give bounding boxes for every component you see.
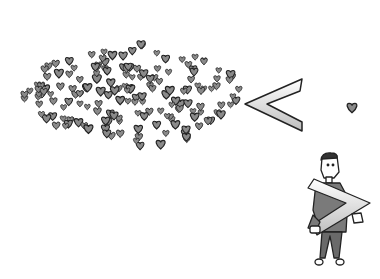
heart-icon — [66, 71, 73, 78]
heart-icon — [190, 68, 198, 76]
heart-icon — [216, 68, 222, 73]
heart-icon — [134, 125, 142, 133]
heart-icon — [209, 86, 215, 92]
heart-icon — [116, 96, 125, 104]
heart-icon — [123, 72, 129, 78]
heart-icon — [95, 101, 102, 108]
heart-icon — [154, 66, 160, 72]
heart-icon — [154, 51, 160, 57]
heart-icon — [132, 99, 138, 105]
heart-icon — [57, 83, 64, 90]
heart-icon — [101, 49, 107, 55]
heart-icon — [149, 85, 156, 92]
heart-icon — [52, 122, 60, 129]
heart-icon — [129, 75, 135, 80]
heart-icon — [71, 65, 77, 71]
heart-icon — [140, 113, 148, 121]
heart-icon — [228, 102, 234, 108]
heart-icon — [84, 125, 93, 134]
heart-icon — [156, 78, 163, 84]
heart-icon — [169, 102, 175, 107]
heart-icon — [103, 68, 111, 75]
heart-icon — [125, 98, 131, 104]
single-heart-icon — [347, 103, 357, 112]
less-than-sign — [245, 79, 302, 131]
heart-icon — [76, 77, 83, 83]
heart-icon — [41, 66, 48, 73]
heart-icon — [165, 69, 171, 75]
heart-icon — [94, 108, 102, 115]
heart-icon — [181, 88, 187, 94]
heart-icon — [77, 101, 83, 107]
heart-icon — [214, 76, 220, 82]
heart-icon — [218, 102, 225, 109]
heart-icon — [88, 52, 95, 58]
heart-icon — [163, 130, 169, 136]
heart-icon — [153, 121, 161, 129]
heart-icon — [50, 98, 57, 105]
heart-icon — [119, 52, 127, 60]
heart-icon — [96, 87, 105, 96]
heart-icon — [197, 103, 204, 110]
heart-icon — [196, 123, 203, 130]
heart-icon — [107, 79, 115, 87]
heart-icon — [190, 113, 199, 121]
heart-icon — [61, 105, 67, 111]
heart-icon — [162, 55, 170, 63]
heart-icon — [84, 104, 90, 110]
heart-icon — [146, 75, 154, 82]
heart-cloud — [21, 41, 242, 150]
heart-icon — [116, 130, 124, 137]
heart-icon — [36, 101, 43, 107]
heart-icon — [188, 76, 195, 83]
illustration — [0, 0, 380, 279]
heart-icon — [52, 60, 59, 67]
heart-icon — [179, 57, 185, 63]
heart-icon — [108, 51, 117, 59]
heart-icon — [48, 92, 54, 98]
heart-icon — [236, 86, 242, 92]
heart-icon — [105, 91, 113, 98]
heart-icon — [65, 58, 73, 66]
man-carrying-sign — [308, 153, 370, 265]
heart-icon — [201, 58, 208, 64]
heart-icon — [217, 111, 225, 119]
heart-icon — [54, 69, 63, 78]
heart-icon — [226, 77, 233, 84]
heart-icon — [192, 54, 198, 60]
heart-icon — [63, 123, 69, 129]
heart-icon — [158, 108, 164, 114]
heart-icon — [171, 121, 180, 129]
heart-icon — [184, 100, 192, 108]
heart-icon — [129, 47, 137, 54]
heart-icon — [197, 87, 204, 94]
heart-icon — [156, 140, 165, 149]
heart-icon — [44, 73, 51, 80]
